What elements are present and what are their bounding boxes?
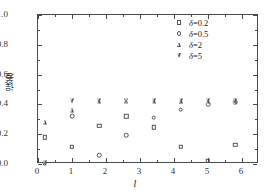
data-point — [70, 99, 74, 104]
y-tick-minor — [38, 30, 40, 31]
data-point — [97, 153, 102, 158]
data-point — [206, 98, 210, 103]
square-marker-icon — [97, 124, 101, 128]
y-tick-major-right — [253, 15, 257, 16]
circle-marker-icon — [124, 133, 129, 138]
x-tick-major — [106, 158, 107, 162]
y-tick-label: 0.2 — [0, 128, 8, 138]
x-tick-minor-top — [55, 15, 56, 17]
triangle-down-marker-icon — [124, 98, 128, 103]
x-tick-major-top — [140, 15, 141, 19]
x-tick-major — [174, 158, 175, 162]
x-tick-minor-top — [225, 15, 226, 17]
triangle-down-marker-icon — [206, 98, 210, 103]
chart-legend: δ=0.2δ=0.5δ=2δ=5 — [173, 17, 208, 61]
square-marker-icon — [206, 159, 210, 163]
legend-label: δ=0.2 — [189, 18, 208, 28]
triangle-up-marker-icon — [43, 119, 47, 124]
square-marker-icon — [70, 145, 74, 149]
y-tick-minor-right — [255, 30, 257, 31]
x-tick-minor-top — [157, 15, 158, 17]
x-tick-major — [242, 158, 243, 162]
x-axis-title: l — [0, 178, 270, 189]
chart-figure: 误差 l 0.00.20.40.60.81.0 0123456 δ=0.2δ=0… — [0, 0, 270, 195]
data-point — [43, 135, 47, 139]
y-tick-minor — [38, 60, 40, 61]
y-tick-minor-right — [255, 119, 257, 120]
y-tick-minor-right — [255, 60, 257, 61]
triangle-down-marker-icon — [173, 50, 185, 61]
circle-marker-icon — [151, 116, 156, 121]
legend-item: δ=0.5 — [173, 28, 208, 39]
data-point — [233, 98, 237, 103]
data-point — [179, 98, 183, 103]
x-tick-label: 6 — [231, 166, 251, 176]
y-tick-major-right — [253, 45, 257, 46]
data-point — [124, 114, 128, 118]
y-tick-label: 1.0 — [0, 9, 8, 19]
data-point — [43, 119, 47, 124]
square-marker-icon — [43, 135, 47, 139]
legend-label: δ=0.5 — [189, 29, 208, 39]
square-marker-icon — [179, 145, 183, 149]
x-tick-minor-top — [123, 15, 124, 17]
x-tick-major-top — [242, 15, 243, 19]
x-tick-label: 5 — [197, 166, 217, 176]
circle-marker-icon — [70, 114, 75, 119]
data-point — [152, 98, 156, 103]
data-point — [206, 159, 210, 163]
x-tick-label: 4 — [163, 166, 183, 176]
x-tick-major — [72, 158, 73, 162]
y-tick-minor — [38, 119, 40, 120]
triangle-up-marker-icon — [70, 107, 74, 112]
data-point — [179, 107, 184, 112]
square-marker-icon-glyph — [177, 20, 181, 24]
data-point — [43, 160, 47, 165]
triangle-down-marker-icon — [179, 98, 183, 103]
y-tick-label: 0.4 — [0, 98, 8, 108]
legend-item: δ=2 — [173, 39, 208, 50]
x-tick-label: 0 — [27, 166, 47, 176]
triangle-up-marker-icon — [173, 39, 185, 50]
x-tick-major-top — [106, 15, 107, 19]
circle-marker-icon — [173, 28, 185, 39]
data-point — [124, 133, 129, 138]
square-marker-icon — [151, 125, 155, 129]
x-tick-minor — [157, 160, 158, 162]
square-marker-icon — [233, 142, 237, 146]
circle-marker-icon — [97, 153, 102, 158]
plot-area: δ=0.2δ=0.5δ=2δ=5 — [38, 15, 257, 162]
triangle-down-marker-icon — [152, 98, 156, 103]
data-point — [151, 116, 156, 121]
legend-item: δ=5 — [173, 50, 208, 61]
triangle-down-marker-icon — [97, 99, 101, 104]
square-marker-icon — [124, 114, 128, 118]
x-tick-label: 3 — [129, 166, 149, 176]
triangle-up-marker-icon-glyph — [177, 42, 181, 47]
y-tick-label: 0.0 — [0, 158, 8, 168]
x-tick-minor-top — [89, 15, 90, 17]
y-tick-major — [38, 45, 42, 46]
data-point — [70, 114, 75, 119]
y-tick-label: 0.6 — [0, 69, 8, 79]
data-point — [124, 98, 128, 103]
plot-frame: δ=0.2δ=0.5δ=2δ=5 — [37, 14, 258, 163]
circle-marker-icon-glyph — [177, 31, 182, 36]
y-tick-major — [38, 75, 42, 76]
legend-label: δ=2 — [189, 40, 202, 50]
triangle-down-marker-icon — [70, 99, 74, 104]
y-tick-label: 0.8 — [0, 39, 8, 49]
data-point — [233, 142, 237, 146]
legend-item: δ=0.2 — [173, 17, 208, 28]
triangle-down-marker-icon — [233, 98, 237, 103]
x-tick-label: 2 — [95, 166, 115, 176]
x-tick-minor — [191, 160, 192, 162]
data-point — [97, 99, 101, 104]
triangle-down-marker-icon-glyph — [177, 53, 181, 58]
y-tick-major — [38, 104, 42, 105]
x-tick-major — [38, 158, 39, 162]
triangle-down-marker-icon — [43, 160, 47, 165]
y-tick-minor-right — [255, 90, 257, 91]
data-point — [70, 107, 74, 112]
circle-marker-icon — [179, 107, 184, 112]
